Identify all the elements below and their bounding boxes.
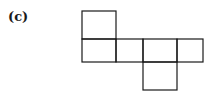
net-square-bottom [143,62,177,90]
net-square-row-2 [116,39,143,62]
net-square-top [82,11,116,39]
net-square-row-4 [177,39,203,62]
net-square-row-3 [143,39,177,62]
cube-net-diagram [0,0,215,97]
net-square-row-1 [82,39,116,62]
